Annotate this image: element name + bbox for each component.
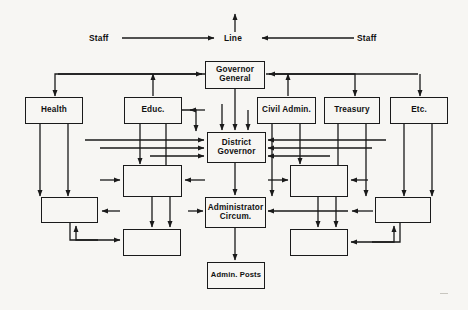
- diagram-canvas: Governor General Health Educ. Civil Admi…: [0, 0, 468, 310]
- node-unlabeled-bottom-left[interactable]: [123, 229, 181, 256]
- node-civil-admin[interactable]: Civil Admin.: [257, 97, 316, 124]
- label-line-center: Line: [224, 33, 242, 43]
- node-health[interactable]: Health: [25, 97, 83, 124]
- node-unlabeled-mid-right[interactable]: [290, 165, 348, 197]
- node-unlabeled-mid-left[interactable]: [123, 165, 182, 197]
- node-unlabeled-bottom-right[interactable]: [290, 229, 348, 256]
- node-treasury[interactable]: Treasury: [324, 97, 380, 124]
- node-admin-posts[interactable]: Admin. Posts: [207, 262, 265, 289]
- node-governor-general[interactable]: Governor General: [205, 61, 265, 89]
- label-staff-left: Staff: [89, 33, 109, 43]
- node-unlabeled-low-left[interactable]: [41, 197, 98, 223]
- node-educ[interactable]: Educ.: [124, 97, 182, 124]
- node-etc[interactable]: Etc.: [390, 97, 448, 124]
- node-district-governor[interactable]: District Governor: [207, 132, 266, 163]
- node-administrator-circum[interactable]: Administrator Circum.: [205, 197, 266, 228]
- label-staff-right: Staff: [357, 33, 377, 43]
- scan-frame-mark-bottom-right: [440, 293, 448, 294]
- node-unlabeled-low-right[interactable]: [375, 197, 431, 223]
